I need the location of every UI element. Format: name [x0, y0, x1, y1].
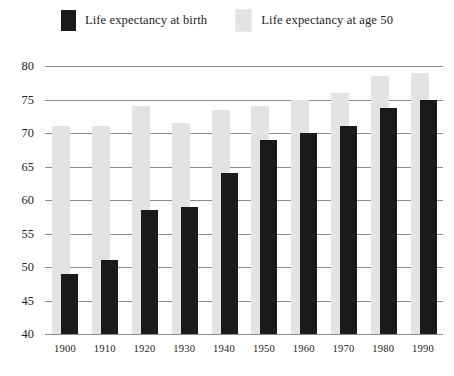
x-axis-tick-label: 1960 — [284, 343, 324, 355]
bar-life-expectancy-at-birth — [141, 210, 158, 334]
legend-entry-age-50: Life expectancy at age 50 — [235, 9, 393, 32]
y-axis-tick-label: 70 — [0, 127, 34, 139]
legend-label-age-50: Life expectancy at age 50 — [261, 13, 393, 28]
bar-group — [371, 66, 398, 334]
bar-group — [411, 66, 438, 334]
y-axis-tick-labels: 404550556065707580 — [0, 66, 40, 334]
bar-group — [331, 66, 358, 334]
x-axis-tick-label: 1920 — [125, 343, 165, 355]
legend-swatch-light-icon — [235, 9, 252, 32]
x-axis-tick-label: 1900 — [45, 343, 85, 355]
bar-group — [251, 66, 278, 334]
bar-group — [291, 66, 318, 334]
x-axis-tick-label: 1940 — [204, 343, 244, 355]
bar-life-expectancy-at-birth — [181, 207, 198, 334]
bar-life-expectancy-at-birth — [260, 140, 277, 334]
bar-life-expectancy-at-birth — [420, 100, 437, 335]
y-axis-tick-label: 65 — [0, 161, 34, 173]
bar-life-expectancy-at-birth — [300, 133, 317, 334]
bar-life-expectancy-at-birth — [340, 126, 357, 334]
x-axis-tick-label: 1910 — [85, 343, 125, 355]
bar-life-expectancy-at-birth — [221, 173, 238, 334]
x-axis-tick-label: 1950 — [244, 343, 284, 355]
legend-entry-birth: Life expectancy at birth — [61, 10, 207, 31]
y-axis-tick-label: 50 — [0, 261, 34, 273]
bar-life-expectancy-at-birth — [101, 260, 118, 334]
legend-label-birth: Life expectancy at birth — [85, 13, 207, 28]
x-axis-tick-label: 1970 — [324, 343, 364, 355]
x-axis-tick-label: 1980 — [363, 343, 403, 355]
bar-life-expectancy-at-birth — [380, 108, 397, 334]
x-axis-tick-labels: 1900191019201930194019501960197019801990 — [45, 343, 443, 363]
bar-group — [52, 66, 79, 334]
chart-figure: Life expectancy at birth Life expectancy… — [0, 0, 454, 376]
y-axis-tick-label: 80 — [0, 60, 34, 72]
chart-legend: Life expectancy at birth Life expectancy… — [0, 6, 454, 34]
bar-group — [92, 66, 119, 334]
x-axis-tick-label: 1990 — [403, 343, 443, 355]
y-axis-tick-label: 75 — [0, 94, 34, 106]
y-axis-tick-label: 45 — [0, 295, 34, 307]
legend-swatch-dark-icon — [61, 10, 76, 31]
bar-life-expectancy-at-birth — [61, 274, 78, 334]
bar-group — [132, 66, 159, 334]
bar-group — [212, 66, 239, 334]
y-axis-tick-label: 60 — [0, 194, 34, 206]
gridline — [45, 334, 443, 335]
bar-group — [172, 66, 199, 334]
y-axis-tick-label: 55 — [0, 228, 34, 240]
x-axis-tick-label: 1930 — [164, 343, 204, 355]
plot-area — [45, 66, 443, 334]
y-axis-tick-label: 40 — [0, 328, 34, 340]
